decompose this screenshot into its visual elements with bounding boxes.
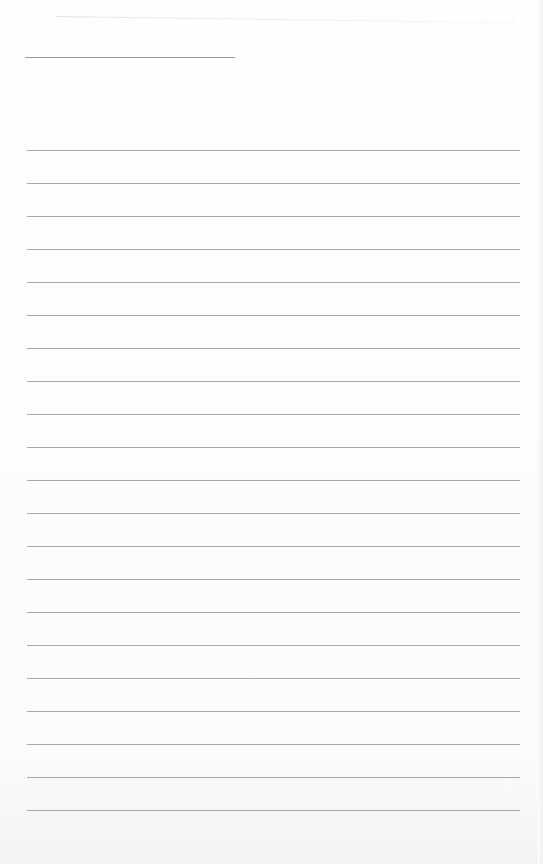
ruled-line [27, 546, 520, 547]
ruled-line [27, 315, 520, 316]
ruled-line [27, 810, 520, 811]
ruled-line [27, 348, 520, 349]
ruled-line [27, 249, 520, 250]
faint-header-line [56, 16, 516, 23]
ruled-line [27, 183, 520, 184]
ruled-line [27, 579, 520, 580]
ruled-line [27, 480, 520, 481]
ruled-line [27, 711, 520, 712]
ruled-line [27, 150, 520, 151]
ruled-line [27, 645, 520, 646]
ruled-line [27, 282, 520, 283]
ruled-line [27, 381, 520, 382]
ruled-line [27, 513, 520, 514]
ruled-line [27, 414, 520, 415]
ruled-line [27, 612, 520, 613]
title-line [25, 57, 235, 58]
ruled-line [27, 777, 520, 778]
lined-paper-page [0, 0, 543, 864]
ruled-line [27, 447, 520, 448]
page-edge-shadow [537, 0, 543, 864]
ruled-line [27, 744, 520, 745]
ruled-line [27, 678, 520, 679]
ruled-line [27, 216, 520, 217]
